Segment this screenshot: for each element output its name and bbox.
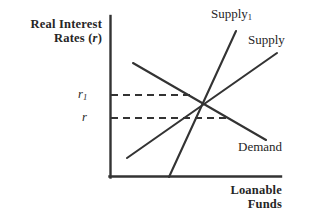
y-axis-title-line1: Real Interest <box>31 17 102 31</box>
supply-curve-label: Supply <box>248 33 285 48</box>
supply1-label-text: Supply <box>211 6 248 21</box>
demand-curve-label: Demand <box>238 140 282 155</box>
x-axis-title: Loanable Funds <box>186 183 282 211</box>
curves-group <box>127 31 277 177</box>
x-axis-title-line1: Loanable <box>230 183 282 197</box>
y-tick-label-r1: r1 <box>78 87 87 101</box>
y-axis-title-line2-suffix: ) <box>98 31 102 45</box>
supply1-curve-label: Supply1 <box>211 7 252 22</box>
tick-r1-subscript: 1 <box>83 92 87 102</box>
y-axis-title-line2-prefix: Rates ( <box>54 31 93 45</box>
x-axis-title-line2: Funds <box>248 197 282 211</box>
loanable-funds-diagram: Real Interest Rates (r) Loanable Funds S… <box>0 0 310 224</box>
y-tick-label-r: r <box>82 110 87 124</box>
y-axis-title: Real Interest Rates (r) <box>10 17 102 45</box>
supply1-label-subscript: 1 <box>248 12 252 22</box>
